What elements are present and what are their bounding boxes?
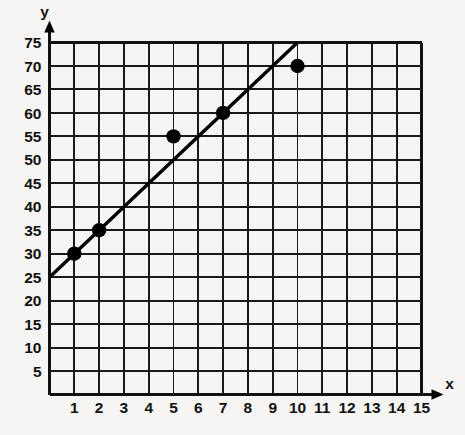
y-tick-label: 40	[24, 198, 41, 215]
y-tick-label: 30	[24, 245, 41, 262]
y-tick-label: 75	[24, 34, 42, 51]
data-point	[67, 247, 81, 261]
x-tick-label: 12	[338, 399, 355, 416]
x-axis-title: x	[445, 375, 454, 392]
y-axis-title: y	[40, 3, 49, 20]
data-point	[92, 223, 106, 237]
y-tick-label: 20	[24, 292, 41, 309]
x-tick-label: 6	[194, 399, 203, 416]
x-tick-label: 2	[95, 399, 104, 416]
y-tick-label: 5	[33, 363, 42, 380]
chart-page: 123456789101112131415 510152025303540455…	[0, 0, 465, 435]
x-tick-label: 4	[144, 399, 153, 416]
x-tick-label: 13	[363, 399, 381, 416]
y-tick-label: 15	[24, 316, 42, 333]
x-axis-tick-labels: 123456789101112131415	[70, 399, 431, 416]
x-tick-label: 9	[268, 399, 277, 416]
x-tick-label: 3	[120, 399, 129, 416]
x-tick-label: 14	[388, 399, 406, 416]
x-tick-label: 8	[244, 399, 253, 416]
y-tick-label: 70	[24, 58, 41, 75]
x-tick-label: 11	[314, 399, 331, 416]
data-point	[166, 129, 180, 143]
data-point	[290, 59, 304, 73]
y-tick-label: 10	[24, 339, 41, 356]
x-tick-label: 1	[70, 399, 79, 416]
x-tick-label: 15	[413, 399, 431, 416]
y-tick-label: 45	[24, 175, 42, 192]
y-tick-label: 25	[24, 269, 42, 286]
y-axis-tick-labels: 51015202530354045505560657075	[24, 34, 42, 380]
x-tick-label: 5	[169, 399, 178, 416]
y-tick-label: 60	[24, 105, 41, 122]
x-tick-label: 7	[219, 399, 228, 416]
y-tick-label: 65	[24, 81, 42, 98]
y-tick-label: 50	[24, 151, 41, 168]
y-tick-label: 55	[24, 128, 42, 145]
x-axis-title-text: x	[445, 375, 454, 392]
x-tick-label: 10	[289, 399, 306, 416]
y-tick-label: 35	[24, 222, 42, 239]
y-axis-title-text: y	[40, 3, 49, 20]
scatter-plot-figure: 123456789101112131415 510152025303540455…	[0, 0, 465, 435]
data-point	[216, 106, 230, 120]
